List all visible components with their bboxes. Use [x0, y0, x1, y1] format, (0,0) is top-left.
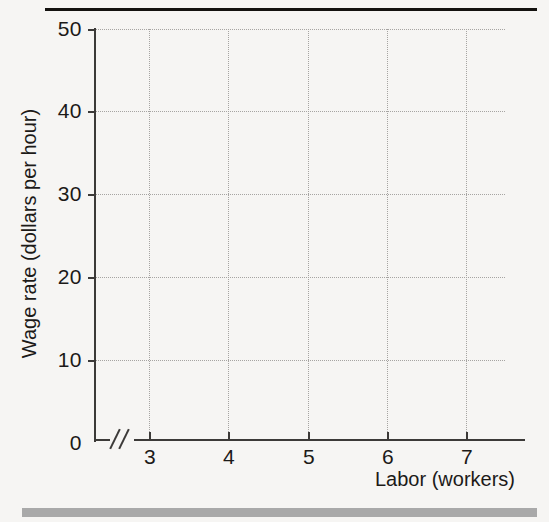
x-tick-label-7: 7	[447, 445, 487, 469]
gridline-horizontal-10	[96, 360, 505, 361]
x-tick-label-3: 3	[130, 445, 170, 469]
y-tick-label-10: 10	[42, 348, 82, 372]
x-tick-mark-6	[387, 432, 389, 440]
x-tick-mark-4	[228, 432, 230, 440]
x-tick-label-4: 4	[209, 445, 249, 469]
x-tick-label-6: 6	[368, 445, 408, 469]
gridline-vertical-7	[466, 29, 467, 440]
y-tick-mark-50	[88, 29, 96, 31]
bottom-gray-bar	[22, 508, 537, 517]
gridline-horizontal-50	[96, 29, 505, 30]
chart-figure: 50 40 30 20 10 0 3 4 5 6 7 Wage rate (do…	[0, 0, 549, 522]
y-tick-label-20: 20	[42, 265, 82, 289]
x-tick-mark-3	[149, 432, 151, 440]
top-rule-divider	[45, 8, 537, 11]
x-axis-title: Labor (workers)	[355, 468, 535, 491]
y-axis-title: Wage rate (dollars per hour)	[18, 39, 41, 429]
y-tick-mark-40	[88, 111, 96, 113]
y-axis-line	[94, 28, 96, 442]
y-tick-label-40: 40	[42, 99, 82, 123]
y-tick-mark-20	[88, 277, 96, 279]
gridline-vertical-4	[228, 29, 229, 440]
y-tick-label-50: 50	[42, 17, 82, 41]
gridline-horizontal-20	[96, 277, 505, 278]
gridline-vertical-6	[387, 29, 388, 440]
y-tick-mark-30	[88, 194, 96, 196]
x-tick-mark-5	[308, 432, 310, 440]
x-axis-break-icon	[110, 426, 136, 452]
gridline-horizontal-30	[96, 194, 505, 195]
y-tick-mark-10	[88, 360, 96, 362]
x-tick-label-5: 5	[289, 445, 329, 469]
y-tick-label-30: 30	[42, 182, 82, 206]
gridline-horizontal-40	[96, 111, 505, 112]
gridline-vertical-3	[149, 29, 150, 440]
y-tick-label-0: 0	[42, 431, 82, 455]
gridline-vertical-5	[308, 29, 309, 440]
x-tick-mark-7	[466, 432, 468, 440]
